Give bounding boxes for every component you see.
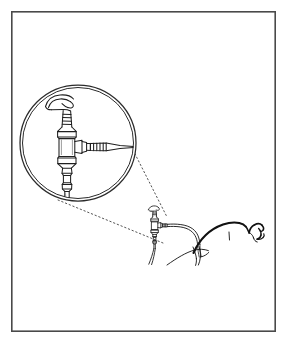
magnifier-outer-ring bbox=[20, 85, 136, 201]
illustration-figure: Nasogastric tube connector with magnifie… bbox=[0, 0, 287, 343]
magnified-detail-circle bbox=[20, 85, 136, 201]
illustration-canvas bbox=[0, 0, 287, 343]
